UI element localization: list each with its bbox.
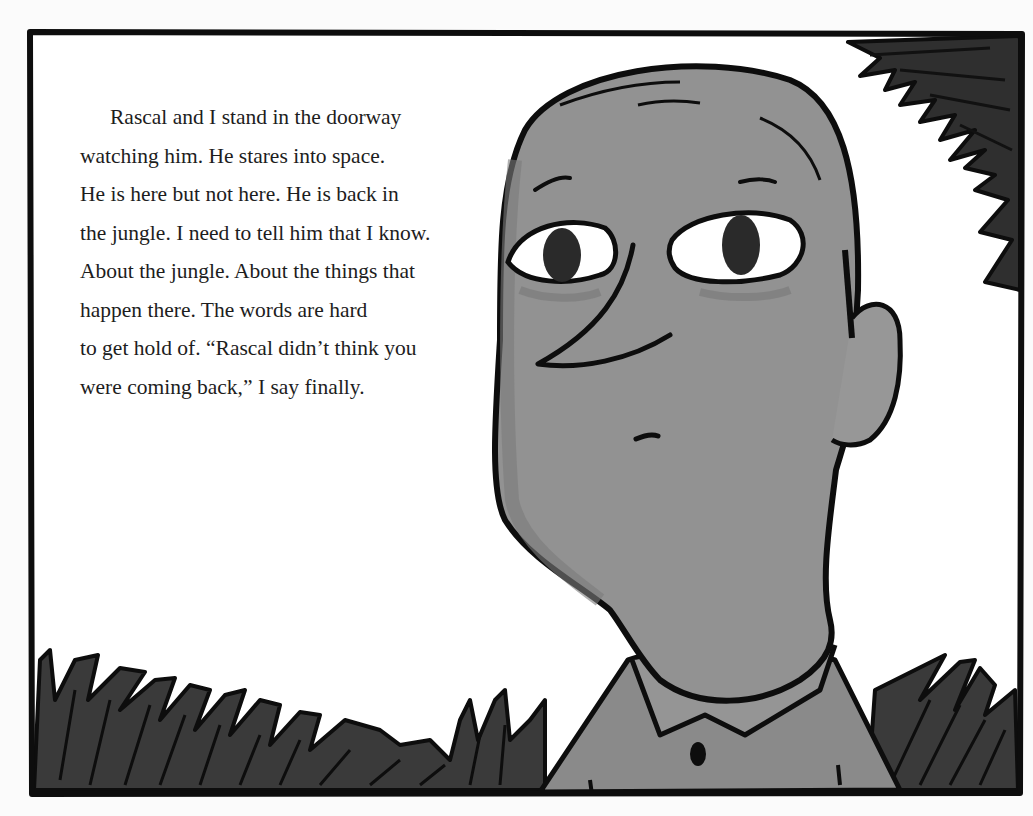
story-line: to get hold of. “Rascal didn’t think you: [80, 329, 500, 368]
story-line: Rascal and I stand in the doorway: [80, 98, 500, 137]
story-line: About the jungle. About the things that: [80, 252, 500, 291]
picture-book-page: Rascal and I stand in the doorway watchi…: [0, 0, 1033, 816]
story-line: happen there. The words are hard: [80, 291, 500, 330]
story-line: were coming back,” I say finally.: [80, 368, 500, 407]
story-line: the jungle. I need to tell him that I kn…: [80, 214, 500, 253]
shirt-button-icon: [690, 742, 706, 766]
story-text: Rascal and I stand in the doorway watchi…: [80, 98, 500, 406]
story-line: watching him. He stares into space.: [80, 137, 500, 176]
story-line: He is here but not here. He is back in: [80, 175, 500, 214]
